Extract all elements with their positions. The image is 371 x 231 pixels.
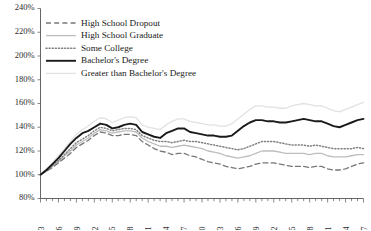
y-tick-label: 120% xyxy=(15,145,35,155)
y-tick-label: 220% xyxy=(15,26,35,36)
legend: High School DropoutHigh School GraduateS… xyxy=(46,18,196,78)
x-tick-label: 1963 xyxy=(37,227,46,231)
legend-item[interactable]: Bachelor's Degree xyxy=(46,55,148,65)
x-tick-label: 2005 xyxy=(288,227,297,231)
x-tick-label: 2011 xyxy=(324,227,333,231)
x-tick-label: 1993 xyxy=(216,227,225,231)
x-tick-label: 2008 xyxy=(306,227,315,231)
series-line-greater-than-bachelor-s-degree xyxy=(41,102,364,174)
series-group xyxy=(41,102,364,174)
y-tick-label: 100% xyxy=(15,169,35,179)
x-tick-label: 2014 xyxy=(342,227,351,231)
legend-label: High School Dropout xyxy=(81,18,161,28)
y-tick-label: 140% xyxy=(15,121,35,131)
x-tick-label: 2002 xyxy=(270,227,279,231)
x-tick-label: 1999 xyxy=(252,227,261,231)
legend-item[interactable]: Greater than Bachelor's Degree xyxy=(46,68,196,78)
x-tick-label: 1984 xyxy=(162,227,171,231)
x-axis-ticks: 1963196619691972197519781981198419871990… xyxy=(37,199,369,231)
line-chart: 240%220%200%180%160%140%120%100%80%19631… xyxy=(0,0,371,230)
y-tick-label: 180% xyxy=(15,74,35,84)
x-tick-label: 1975 xyxy=(108,227,117,231)
chart-container: 240%220%200%180%160%140%120%100%80%19631… xyxy=(0,0,371,230)
legend-label: Greater than Bachelor's Degree xyxy=(81,68,196,78)
y-tick-label: 240% xyxy=(15,2,35,12)
legend-label: Bachelor's Degree xyxy=(81,55,148,65)
x-tick-label: 2017 xyxy=(360,227,369,231)
x-tick-label: 1990 xyxy=(198,227,207,231)
x-tick-label: 1981 xyxy=(144,227,153,231)
x-tick-label: 1969 xyxy=(73,227,82,231)
legend-label: Some College xyxy=(81,43,133,53)
y-axis-ticks: 240%220%200%180%160%140%120%100%80% xyxy=(15,2,41,202)
x-tick-label: 1966 xyxy=(55,227,64,231)
y-tick-label: 80% xyxy=(19,192,35,202)
x-tick-label: 1996 xyxy=(234,227,243,231)
y-tick-label: 160% xyxy=(15,97,35,107)
legend-item[interactable]: High School Graduate xyxy=(46,30,163,40)
legend-item[interactable]: Some College xyxy=(46,43,133,53)
series-line-high-school-graduate xyxy=(41,130,364,175)
y-tick-label: 200% xyxy=(15,50,35,60)
legend-label: High School Graduate xyxy=(81,30,163,40)
x-tick-label: 1972 xyxy=(91,227,100,231)
x-tick-label: 1978 xyxy=(126,227,135,231)
x-tick-label: 1987 xyxy=(180,227,189,231)
legend-item[interactable]: High School Dropout xyxy=(46,18,161,28)
